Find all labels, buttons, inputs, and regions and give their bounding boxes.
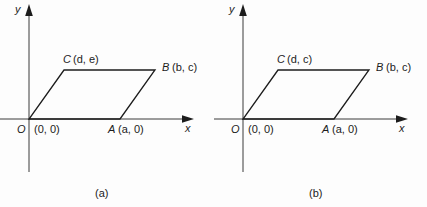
vertex-coord-a: (a, 0) <box>118 124 144 135</box>
y-axis-arrowhead <box>25 4 33 16</box>
figure-caption: (b) <box>309 188 322 199</box>
y-axis-label: y <box>15 4 21 15</box>
vertex-label-c: C <box>63 54 71 65</box>
vertex-label-c: C <box>277 54 285 65</box>
vertex-label-b: B <box>376 62 383 73</box>
figure-sheet: y x O (0, 0) A (a, 0) B (b, c) C (d, e) … <box>0 0 427 207</box>
figure-b: y x O (0, 0) A (a, 0) B (b, c) C (d, c) … <box>214 0 427 207</box>
vertex-coord-b: (b, c) <box>386 62 411 73</box>
vertex-coord-c: (d, e) <box>73 54 99 65</box>
vertex-label-a: A <box>108 124 115 135</box>
parallelogram-shape <box>243 70 369 119</box>
vertex-coord-a: (a, 0) <box>332 124 358 135</box>
vertex-coord-b: (b, c) <box>172 62 197 73</box>
figure-b-drawing <box>214 0 427 207</box>
y-axis-label: y <box>229 4 235 15</box>
parallelogram-shape <box>29 70 155 119</box>
vertex-coord-o: (0, 0) <box>248 124 274 135</box>
vertex-label-a: A <box>322 124 329 135</box>
figure-caption: (a) <box>95 188 108 199</box>
x-axis-label: x <box>185 123 191 134</box>
y-axis-arrowhead <box>239 4 247 16</box>
figure-a: y x O (0, 0) A (a, 0) B (b, c) C (d, e) … <box>0 0 214 207</box>
vertex-coord-c: (d, c) <box>287 54 312 65</box>
vertex-label-o: O <box>17 124 26 135</box>
figure-a-drawing <box>0 0 214 207</box>
vertex-label-o: O <box>231 124 240 135</box>
x-axis-label: x <box>399 123 405 134</box>
vertex-coord-o: (0, 0) <box>34 124 60 135</box>
vertex-label-b: B <box>162 62 169 73</box>
